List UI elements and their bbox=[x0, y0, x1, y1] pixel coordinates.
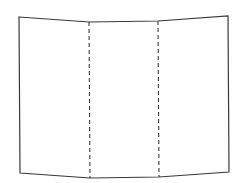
trifold-diagram bbox=[0, 0, 244, 183]
trifold-outline bbox=[19, 16, 229, 178]
trifold-svg bbox=[0, 0, 244, 183]
